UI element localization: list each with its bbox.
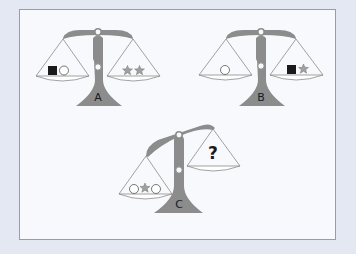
star-weight [299, 64, 309, 73]
scale-b-right-pan [270, 39, 323, 80]
scale-c-label: C [175, 198, 183, 211]
scale-c-left-pan [119, 156, 172, 199]
black-square-weight [287, 65, 296, 74]
scale-c-right-pan: ? [187, 129, 240, 171]
star-weight [135, 65, 145, 74]
scale-a: A [36, 28, 160, 106]
scale-b-left-pan [199, 39, 252, 80]
scale-a-label: A [94, 91, 102, 104]
balance-scales-diagram: A B [0, 0, 356, 254]
unknown-weight-question-mark: ? [208, 143, 218, 163]
circle-weight [60, 66, 69, 75]
circle-weight [130, 185, 139, 194]
scale-c: ? C [119, 124, 240, 213]
scale-b-label: B [257, 91, 265, 104]
black-square-weight [48, 66, 57, 75]
star-weight [123, 65, 133, 74]
circle-weight [221, 66, 230, 75]
scale-a-right-pan [107, 39, 160, 81]
scale-a-left-pan [36, 39, 89, 81]
star-weight [140, 183, 150, 192]
circle-weight [152, 185, 161, 194]
scale-b: B [199, 28, 323, 106]
